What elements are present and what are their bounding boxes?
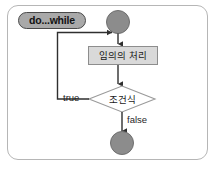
start-node (107, 11, 130, 34)
decision-node-label: 조건식 (96, 92, 148, 106)
edge-label-true: true (63, 92, 79, 103)
edge-label-false: false (127, 114, 147, 125)
edge-true-loop (58, 33, 113, 100)
do-while-title-pill: do...while (18, 12, 86, 29)
process-node-label: 임의의 처리 (88, 46, 158, 65)
end-node (111, 132, 134, 155)
flowchart-figure: do...while 임의의 처리 조건식 true false (0, 0, 218, 169)
